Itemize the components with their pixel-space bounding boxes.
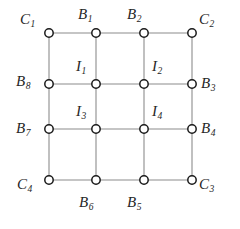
node-label-subscript: 3 xyxy=(211,83,216,93)
node-label-base: I xyxy=(76,103,81,119)
node-label-b7: B7 xyxy=(16,121,30,136)
edges-layer xyxy=(49,33,192,180)
graph-node-corner[interactable] xyxy=(45,29,53,37)
node-label-base: B xyxy=(78,6,87,22)
node-label-base: B xyxy=(201,120,210,136)
node-label-b2: B2 xyxy=(127,7,141,22)
node-label-i1: I1 xyxy=(76,59,86,74)
node-label-base: C xyxy=(199,11,209,27)
grid-graph-diagram: C1B1B2C2B8I1I2B3B7I3I4B4C4B6B5C3 xyxy=(0,0,240,229)
graph-node-boundary[interactable] xyxy=(188,125,196,133)
node-label-base: B xyxy=(201,75,210,91)
node-label-subscript: 6 xyxy=(89,202,94,212)
nodes-layer xyxy=(45,29,196,184)
node-label-c2: C2 xyxy=(199,12,214,27)
graph-node-interior[interactable] xyxy=(140,125,148,133)
node-label-subscript: 1 xyxy=(82,66,87,76)
node-label-subscript: 1 xyxy=(88,14,93,24)
node-label-base: B xyxy=(127,194,136,210)
node-label-c1: C1 xyxy=(20,12,35,27)
grid-lattice-svg xyxy=(0,0,240,229)
node-label-b8: B8 xyxy=(16,74,30,89)
graph-node-boundary[interactable] xyxy=(92,176,100,184)
node-label-base: B xyxy=(16,73,25,89)
node-label-i3: I3 xyxy=(76,104,86,119)
graph-node-interior[interactable] xyxy=(140,80,148,88)
node-label-subscript: 4 xyxy=(28,184,33,194)
graph-node-boundary[interactable] xyxy=(140,176,148,184)
node-label-base: C xyxy=(199,176,209,192)
node-label-subscript: 1 xyxy=(31,19,36,29)
graph-node-boundary[interactable] xyxy=(45,80,53,88)
graph-node-boundary[interactable] xyxy=(92,29,100,37)
graph-node-corner[interactable] xyxy=(45,176,53,184)
node-label-subscript: 3 xyxy=(82,111,87,121)
node-label-subscript: 4 xyxy=(211,128,216,138)
graph-node-boundary[interactable] xyxy=(45,125,53,133)
node-label-b5: B5 xyxy=(127,195,141,210)
graph-node-interior[interactable] xyxy=(92,80,100,88)
node-label-b3: B3 xyxy=(201,76,215,91)
node-label-base: B xyxy=(127,6,136,22)
node-label-subscript: 2 xyxy=(137,14,142,24)
graph-node-interior[interactable] xyxy=(92,125,100,133)
node-label-subscript: 8 xyxy=(26,81,31,91)
node-label-subscript: 5 xyxy=(137,202,142,212)
graph-node-corner[interactable] xyxy=(188,29,196,37)
node-label-subscript: 4 xyxy=(158,111,163,121)
node-label-b1: B1 xyxy=(78,7,92,22)
node-label-subscript: 7 xyxy=(26,128,31,138)
node-label-c4: C4 xyxy=(17,177,32,192)
node-label-base: B xyxy=(16,120,25,136)
node-label-b6: B6 xyxy=(79,195,93,210)
graph-node-boundary[interactable] xyxy=(140,29,148,37)
node-label-c3: C3 xyxy=(199,177,214,192)
graph-node-boundary[interactable] xyxy=(188,80,196,88)
graph-node-corner[interactable] xyxy=(188,176,196,184)
node-label-base: I xyxy=(152,58,157,74)
node-label-subscript: 2 xyxy=(158,66,163,76)
node-label-base: B xyxy=(79,194,88,210)
node-label-subscript: 2 xyxy=(210,19,215,29)
node-label-base: C xyxy=(17,176,27,192)
node-label-b4: B4 xyxy=(201,121,215,136)
node-label-base: I xyxy=(152,103,157,119)
node-label-base: C xyxy=(20,11,30,27)
node-label-i4: I4 xyxy=(152,104,162,119)
node-label-i2: I2 xyxy=(152,59,162,74)
node-label-subscript: 3 xyxy=(210,184,215,194)
node-label-base: I xyxy=(76,58,81,74)
